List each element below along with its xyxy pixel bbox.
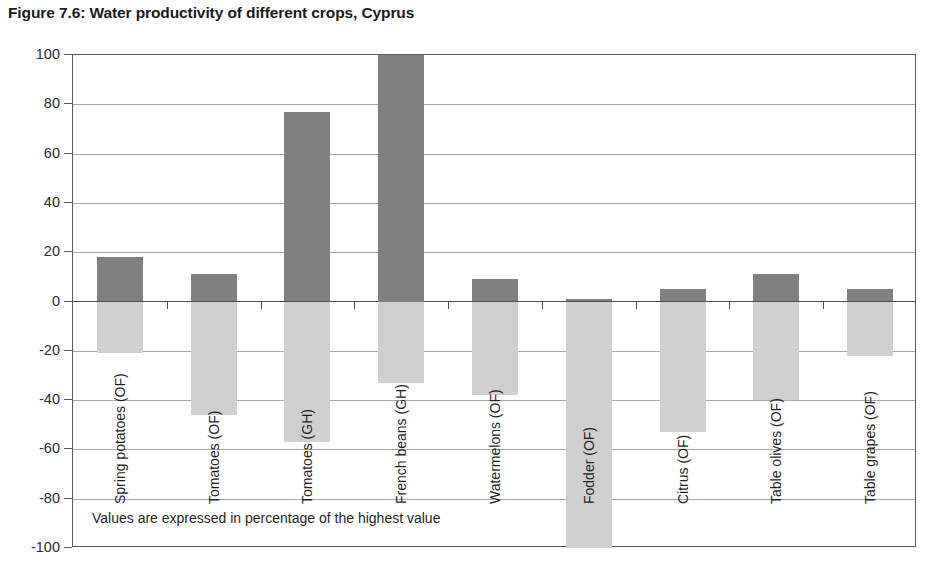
bar-positive-segment[interactable]: [378, 55, 424, 302]
bar-group[interactable]: Table grapes (OF): [847, 55, 893, 546]
bar-positive-segment[interactable]: [284, 112, 330, 302]
x-axis-tick: [542, 302, 543, 309]
bar-category-label: Table olives (OF): [768, 398, 784, 504]
y-axis-tick: [64, 251, 72, 252]
bar-positive-segment[interactable]: [191, 274, 237, 301]
bar-category-label: Tomatoes (OF): [206, 410, 222, 503]
y-axis-label: 80: [44, 95, 60, 111]
x-axis-tick: [167, 302, 168, 309]
page-title: Figure 7.6: Water productivity of differ…: [8, 4, 414, 22]
bar-positive-segment[interactable]: [472, 279, 518, 301]
y-axis-tick: [64, 350, 72, 351]
y-axis-tick: [64, 103, 72, 104]
bar-group[interactable]: Table olives (OF): [753, 55, 799, 546]
bar-group[interactable]: Citrus (OF): [660, 55, 706, 546]
bar-negative-segment[interactable]: [847, 302, 893, 356]
bar-category-label: Spring potatoes (OF): [112, 373, 128, 504]
y-axis-tick: [64, 202, 72, 203]
bar-category-label: Citrus (OF): [675, 434, 691, 503]
y-axis-tick: [64, 448, 72, 449]
y-axis-label: 40: [44, 194, 60, 210]
x-axis-tick: [354, 302, 355, 309]
y-axis-label: 100: [36, 46, 60, 62]
x-axis-tick: [729, 302, 730, 309]
bar-positive-segment[interactable]: [97, 257, 143, 301]
bar-group[interactable]: French beans (GH): [378, 55, 424, 546]
y-axis-label: 60: [44, 145, 60, 161]
bar-category-label: Table grapes (OF): [862, 391, 878, 504]
bar-negative-segment[interactable]: [566, 302, 612, 549]
y-axis-label: -40: [39, 391, 60, 407]
bar-positive-segment[interactable]: [847, 289, 893, 301]
x-axis-tick: [823, 302, 824, 309]
y-axis-labels: 100806040200-20-40-60-80-100: [0, 54, 60, 547]
bar-category-label: Tomatoes (GH): [299, 409, 315, 504]
figure-page: Figure 7.6: Water productivity of differ…: [0, 0, 925, 579]
bar-positive-segment[interactable]: [660, 289, 706, 301]
y-axis-tick: [64, 301, 72, 302]
bar-negative-segment[interactable]: [97, 302, 143, 354]
y-axis-label: -100: [31, 539, 60, 555]
y-axis-tick: [64, 547, 72, 548]
y-axis-ticks: [64, 54, 72, 547]
y-axis-tick: [64, 153, 72, 154]
bar-category-label: Watermelons (OF): [487, 389, 503, 504]
bar-negative-segment[interactable]: [753, 302, 799, 401]
bar-group[interactable]: Tomatoes (GH): [284, 55, 330, 546]
y-axis-label: 20: [44, 243, 60, 259]
bar-negative-segment[interactable]: [378, 302, 424, 383]
plot-area: Spring potatoes (OF)Tomatoes (OF)Tomatoe…: [72, 54, 916, 547]
y-axis-tick: [64, 498, 72, 499]
bar-series: Spring potatoes (OF)Tomatoes (OF)Tomatoe…: [73, 55, 915, 546]
y-axis-label: -80: [39, 490, 60, 506]
y-axis-label: -60: [39, 440, 60, 456]
bar-negative-segment[interactable]: [191, 302, 237, 415]
y-axis-tick: [64, 399, 72, 400]
x-axis-tick: [448, 302, 449, 309]
y-axis-label: 0: [52, 293, 60, 309]
chart-footnote: Values are expressed in percentage of th…: [92, 510, 440, 526]
bar-category-label: Fodder (OF): [581, 426, 597, 503]
bar-group[interactable]: Fodder (OF): [566, 55, 612, 546]
bar-negative-segment[interactable]: [660, 302, 706, 433]
bar-negative-segment[interactable]: [472, 302, 518, 396]
y-axis-label: -20: [39, 342, 60, 358]
x-axis-tick: [636, 302, 637, 309]
bar-group[interactable]: Spring potatoes (OF): [97, 55, 143, 546]
bar-category-label: French beans (GH): [393, 384, 409, 504]
y-axis-tick: [64, 54, 72, 55]
bar-group[interactable]: Tomatoes (OF): [191, 55, 237, 546]
bar-positive-segment[interactable]: [753, 274, 799, 301]
bar-group[interactable]: Watermelons (OF): [472, 55, 518, 546]
x-axis-tick: [261, 302, 262, 309]
